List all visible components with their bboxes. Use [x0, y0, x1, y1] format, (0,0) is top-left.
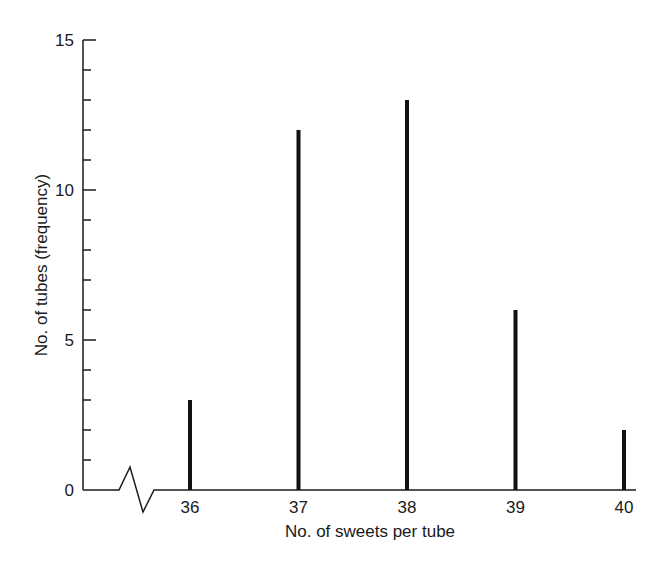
x-tick-label: 36 [181, 498, 200, 517]
x-axis [83, 467, 636, 512]
x-tick-label: 38 [398, 498, 417, 517]
x-axis-label: No. of sweets per tube [285, 522, 455, 541]
y-axis-label: No. of tubes (frequency) [32, 174, 51, 356]
y-tick-label: 5 [65, 331, 74, 350]
y-tick-label: 0 [65, 481, 74, 500]
x-tick-label: 37 [289, 498, 308, 517]
x-tick-label: 40 [615, 498, 634, 517]
x-tick-labels: 3637383940 [181, 498, 634, 517]
x-tick-label: 39 [506, 498, 525, 517]
chart: 051015 3637383940 No. of sweets per tube… [0, 0, 663, 570]
y-tick-labels: 051015 [55, 31, 74, 500]
y-ticks [83, 40, 96, 460]
y-tick-label: 10 [55, 181, 74, 200]
bars [190, 100, 624, 490]
y-tick-label: 15 [55, 31, 74, 50]
